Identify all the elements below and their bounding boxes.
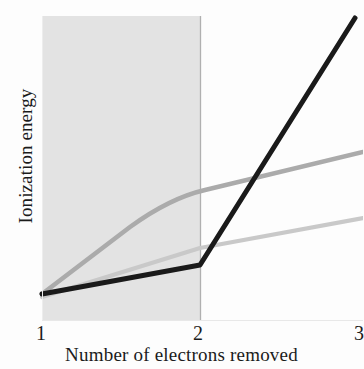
x-tick-label-1: 1	[36, 322, 46, 344]
y-axis-label: Ionization energy	[15, 56, 37, 256]
x-axis-label: Number of electrons removed	[0, 344, 363, 366]
x-tick-label-3: 3	[354, 322, 364, 344]
x-tick-label-2: 2	[193, 322, 203, 344]
